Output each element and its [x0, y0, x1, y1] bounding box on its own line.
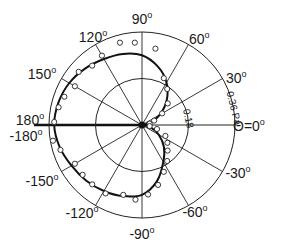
angle-label-120: 120o — [79, 28, 107, 45]
angle-label-neg180: -180o — [9, 127, 42, 144]
data-point — [160, 111, 165, 116]
data-point — [152, 118, 157, 123]
data-point — [72, 161, 77, 166]
data-point — [52, 119, 57, 124]
data-point — [117, 40, 122, 45]
data-point — [103, 191, 108, 196]
data-point — [58, 147, 63, 152]
data-point — [165, 101, 170, 106]
ring-label-inner: 0.18 — [181, 108, 196, 130]
data-point — [154, 126, 159, 131]
data-point — [132, 40, 137, 45]
angle-label-neg60: -60o — [182, 203, 207, 220]
data-point — [165, 86, 170, 91]
measured-points — [50, 40, 170, 202]
data-point — [80, 172, 85, 177]
angle-label-60: 60o — [189, 30, 210, 47]
angle-label-150: 150o — [28, 65, 56, 82]
data-point — [90, 63, 95, 68]
data-point — [121, 192, 126, 197]
data-point — [50, 138, 55, 143]
data-point — [56, 105, 61, 110]
data-point — [161, 76, 166, 81]
polar-chart: 0.180.36 Pa Θ=0o30o60o90o120o150o180o-18… — [0, 0, 284, 249]
data-point — [99, 53, 104, 58]
polar-grid — [34, 32, 235, 218]
data-point — [90, 182, 95, 187]
angle-label-90: 90o — [132, 10, 153, 27]
data-point — [133, 197, 138, 202]
data-point — [145, 192, 150, 197]
angle-label-neg120: -120o — [65, 204, 98, 221]
data-point — [72, 84, 77, 89]
data-point — [165, 140, 170, 145]
angle-label-neg150: -150o — [25, 172, 58, 189]
angle-label-0: Θ=0o — [233, 117, 265, 134]
angle-label-neg90: -90o — [129, 225, 154, 242]
angle-label-30: 30o — [226, 69, 247, 86]
data-point — [161, 169, 166, 174]
data-point — [62, 94, 67, 99]
data-point — [147, 123, 152, 128]
data-point — [76, 69, 81, 74]
data-point — [155, 182, 160, 187]
data-point — [163, 133, 168, 138]
data-point — [153, 46, 158, 51]
data-point — [165, 148, 170, 153]
data-point — [165, 158, 170, 163]
angle-label-neg30: -30o — [225, 164, 250, 181]
